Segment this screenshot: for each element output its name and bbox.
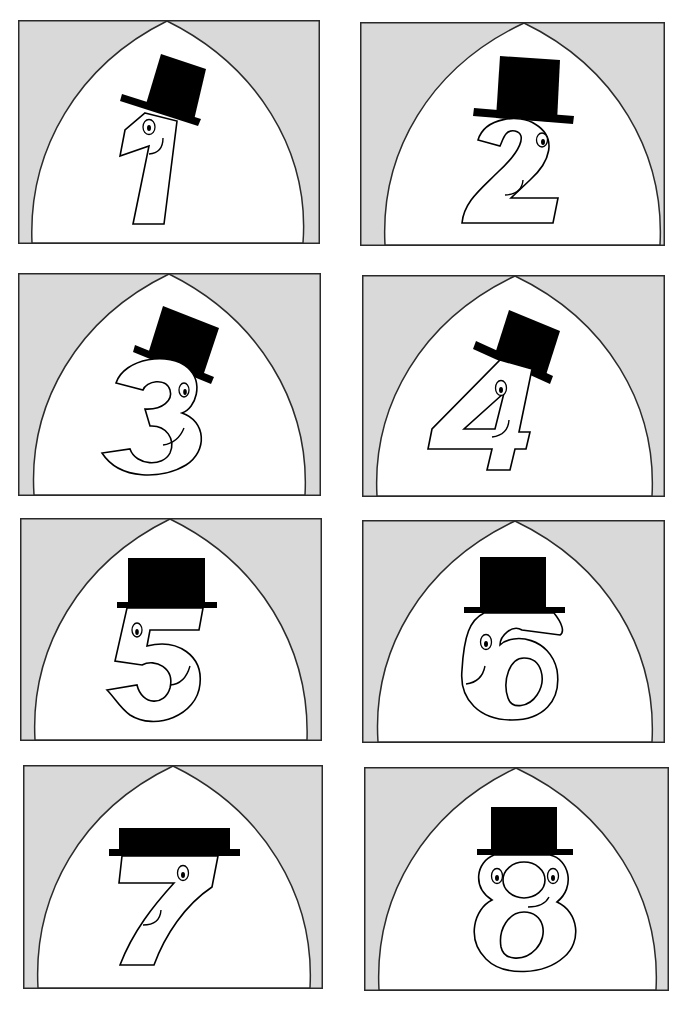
card-3-illustration: [18, 273, 321, 496]
number-card-5: 5: [20, 518, 322, 741]
number-card-2: 2: [360, 22, 665, 246]
card-7-illustration: [23, 765, 323, 989]
card-5-illustration: [20, 518, 322, 741]
top-hat-icon: [109, 828, 240, 856]
number-card-1: 1: [18, 20, 320, 244]
top-hat-icon: [117, 558, 217, 608]
number-card-6: 6: [362, 520, 665, 743]
number-card-8: 8: [364, 767, 669, 991]
number-card-7: 7: [23, 765, 323, 989]
card-6-illustration: [362, 520, 665, 743]
numeral-8-character: [474, 855, 575, 972]
card-2-illustration: [360, 22, 665, 246]
card-4-illustration: [362, 275, 665, 497]
card-1-illustration: [18, 20, 320, 244]
number-card-3: 3: [18, 273, 321, 496]
card-8-illustration: [364, 767, 669, 991]
number-card-4: 4: [362, 275, 665, 497]
numeral-6-character: [462, 613, 563, 720]
